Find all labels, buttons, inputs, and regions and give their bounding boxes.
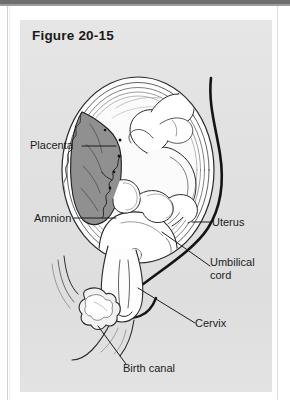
- label-placenta: Placenta: [30, 139, 73, 152]
- vaginal-rugae: [101, 328, 118, 352]
- page-top-band-shadow: [0, 4, 290, 6]
- placenta-vessel-dot: [113, 171, 116, 174]
- label-umbilical-cord-line2: cord: [210, 269, 255, 282]
- placenta-vessel-dot: [118, 155, 121, 158]
- label-uterus: Uterus: [212, 216, 244, 229]
- leader-line-cervix: [138, 288, 195, 323]
- placenta-vessel-dot: [104, 129, 107, 132]
- lower-abdomen-fold: [52, 264, 70, 308]
- placenta-vessel-dot: [119, 139, 122, 142]
- page-gutter-line-left: [7, 6, 8, 400]
- label-umbilical-cord: Umbilical cord: [210, 256, 255, 282]
- label-umbilical-cord-line1: Umbilical: [210, 256, 255, 269]
- anterior-abdominal-contour: [64, 256, 78, 294]
- page-gutter-line-left-inner: [9, 6, 10, 400]
- page-gutter-line-right: [277, 6, 278, 400]
- scanned-page: Figure 20-15: [0, 0, 290, 400]
- figure-panel: Figure 20-15: [20, 20, 272, 392]
- label-amnion: Amnion: [34, 212, 71, 225]
- birth-canal-wall2: [120, 320, 134, 356]
- placenta-vessel-dot: [109, 187, 112, 190]
- anatomy-illustration: [20, 20, 272, 392]
- leader-line-birth-canal: [98, 326, 126, 364]
- label-cervix: Cervix: [195, 317, 226, 330]
- label-birth-canal: Birth canal: [123, 362, 175, 375]
- fetal-toes: [186, 86, 197, 92]
